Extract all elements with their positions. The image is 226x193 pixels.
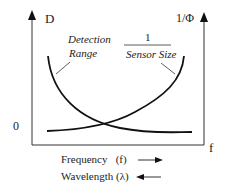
detection-range-curve xyxy=(48,56,192,132)
wavelength-label: Wavelength (λ) xyxy=(61,170,129,183)
detection-leader-line xyxy=(56,62,70,74)
detection-label-line1: Detection xyxy=(67,33,111,45)
sensor-size-curve xyxy=(47,56,184,131)
detection-label-line2: Range xyxy=(68,47,97,59)
diagram-canvas: D 1/Φ f 0 Detection Range 1 Sensor Size … xyxy=(0,0,226,193)
sensor-leader-line xyxy=(161,63,175,74)
right-axis-label: 1/Φ xyxy=(176,11,194,25)
wavelength-arrow-icon xyxy=(136,174,144,180)
frequency-arrow-icon xyxy=(155,157,163,163)
sensor-denominator: Sensor Size xyxy=(126,48,177,60)
frequency-label: Frequency (f) xyxy=(61,153,127,166)
left-axis-arrow-icon xyxy=(28,10,36,20)
left-axis-label: D xyxy=(45,11,54,26)
diagram-svg: D 1/Φ f 0 Detection Range 1 Sensor Size … xyxy=(0,0,226,193)
origin-label: 0 xyxy=(13,119,19,133)
sensor-numerator: 1 xyxy=(145,31,151,43)
x-axis-end-label: f xyxy=(209,140,214,155)
right-axis-arrow-icon xyxy=(200,12,208,22)
